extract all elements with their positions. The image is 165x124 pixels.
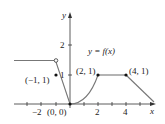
point-4-1 <box>124 73 127 76</box>
y-tick-label-2: 2 <box>60 40 65 50</box>
function-label: y = f(x) <box>87 46 115 56</box>
point-neg1-1 <box>54 73 57 76</box>
segment-descending <box>56 62 70 104</box>
point-label-4-1: (4, 1) <box>129 66 149 76</box>
point-origin <box>68 102 71 105</box>
y-tick-label-1: 1 <box>60 70 65 80</box>
open-point <box>54 59 58 63</box>
point-label-2-1: (2, 1) <box>76 66 96 76</box>
segment-right-descending <box>126 75 154 102</box>
segment-curve <box>70 75 98 104</box>
x-axis-label: x <box>149 106 154 116</box>
function-graph: y x 2 1 −2 2 4 (0, 0) (−1, 1) (2, 1) (4,… <box>0 0 165 124</box>
point-label-origin: (0, 0) <box>47 107 67 117</box>
point-2-1 <box>96 73 99 76</box>
x-tick-label-neg2: −2 <box>32 107 42 117</box>
y-axis-label: y <box>61 10 66 20</box>
x-tick-label-4: 4 <box>123 107 128 117</box>
x-tick-label-2: 2 <box>95 107 100 117</box>
y-axis-arrow-icon <box>68 12 72 18</box>
point-label-neg1-1: (−1, 1) <box>25 75 50 85</box>
